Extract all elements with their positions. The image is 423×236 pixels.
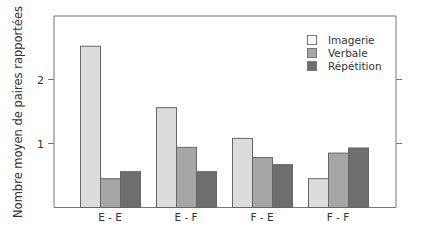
- bar: [81, 46, 101, 207]
- bar-group: [233, 138, 293, 207]
- x-tick-label: E - E: [98, 211, 122, 223]
- y-tick-label: 2: [37, 74, 44, 87]
- bar: [197, 172, 217, 208]
- legend: ImagerieVerbaleRépétition: [308, 34, 382, 72]
- legend-label: Imagerie: [328, 34, 375, 46]
- x-tick-label: F - F: [327, 211, 350, 223]
- bar: [121, 172, 141, 208]
- x-tick-label: E - F: [174, 211, 197, 223]
- bar: [273, 165, 293, 208]
- bar: [253, 158, 273, 208]
- y-tick-label: 1: [37, 138, 44, 151]
- legend-swatch: [308, 49, 317, 58]
- bar: [101, 179, 121, 208]
- legend-swatch: [308, 36, 317, 45]
- bar-group: [157, 108, 217, 208]
- x-tick-label: F - E: [250, 211, 273, 223]
- legend-label: Verbale: [328, 47, 368, 59]
- bar-group: [309, 148, 369, 208]
- bar: [157, 108, 177, 208]
- bar: [349, 148, 369, 208]
- bar-group: [81, 46, 141, 207]
- bar: [177, 147, 197, 207]
- bar-chart: 12 E - EE - FF - EF - F Nombre moyen de …: [0, 0, 423, 236]
- bar: [233, 138, 253, 207]
- bar: [309, 179, 329, 208]
- y-axis-title: Nombre moyen de paires rapportées: [11, 6, 25, 218]
- x-tick-labels: E - EE - FF - EF - F: [98, 211, 349, 223]
- bars: [81, 46, 369, 207]
- legend-swatch: [308, 62, 317, 71]
- bar: [329, 153, 349, 207]
- legend-label: Répétition: [328, 60, 382, 72]
